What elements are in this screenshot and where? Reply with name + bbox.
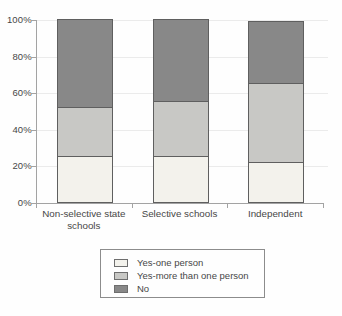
- stacked-bar-chart: 0%20%40%60%80%100% Non-selective state s…: [0, 0, 342, 316]
- plot-area: [36, 20, 324, 204]
- category-label: Independent: [227, 208, 323, 220]
- category-label: Selective schools: [132, 208, 228, 220]
- bar-segment: [153, 101, 209, 157]
- x-axis-tick: [323, 204, 324, 208]
- legend-label: Yes-one person: [137, 257, 203, 268]
- bar-segment: [57, 19, 113, 108]
- legend-entry: Yes-more than one person: [114, 269, 264, 282]
- legend-swatch: [114, 259, 128, 267]
- legend-entry: No: [114, 282, 264, 295]
- y-axis-tick: [31, 93, 36, 94]
- y-axis-tick-label: 20%: [0, 161, 32, 171]
- bar-segment: [57, 156, 113, 203]
- y-axis-tick-label: 100%: [0, 15, 32, 25]
- stacked-bar: [153, 20, 209, 203]
- y-axis-tick: [31, 20, 36, 21]
- stacked-bar: [57, 20, 113, 203]
- bar-segment: [153, 19, 209, 102]
- y-axis-tick: [31, 57, 36, 58]
- legend-entry: Yes-one person: [114, 256, 264, 269]
- y-axis-tick-label: 80%: [0, 52, 32, 62]
- y-axis-tick-label: 60%: [0, 88, 32, 98]
- legend-label: Yes-more than one person: [137, 270, 249, 281]
- category-label: Non-selective state schools: [36, 208, 132, 232]
- legend-swatch: [114, 285, 128, 293]
- legend-label: No: [137, 283, 149, 294]
- bar-segment: [248, 21, 304, 84]
- y-axis-tick: [31, 130, 36, 131]
- bar-segment: [248, 162, 304, 203]
- legend-box: Yes-one personYes-more than one personNo: [100, 249, 265, 298]
- stacked-bar: [248, 20, 304, 203]
- y-axis-tick-label: 40%: [0, 125, 32, 135]
- y-axis-tick: [31, 166, 36, 167]
- legend-swatch: [114, 272, 128, 280]
- bar-segment: [153, 156, 209, 203]
- bar-segment: [248, 83, 304, 163]
- y-axis-tick-label: 0%: [0, 198, 32, 208]
- bar-segment: [57, 107, 113, 157]
